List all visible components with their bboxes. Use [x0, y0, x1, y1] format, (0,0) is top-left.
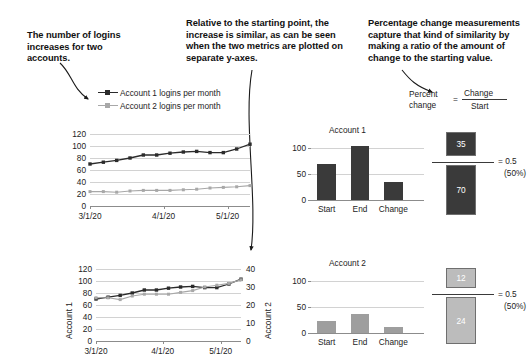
- data-point: [142, 153, 145, 156]
- y-axis-tick-label-right: 30: [246, 282, 270, 292]
- data-point: [248, 143, 251, 146]
- x-axis-tick-label: 3/1/20: [68, 211, 112, 221]
- x-axis-tick-mark: [90, 206, 91, 209]
- data-point: [88, 162, 91, 165]
- y-axis-tick-label-right: 40: [246, 264, 270, 274]
- x-axis-tick-label: Change: [369, 204, 418, 214]
- data-point: [249, 184, 252, 187]
- ratio-account-2-fraction-bar: [432, 294, 494, 295]
- bar-start: [317, 321, 336, 333]
- y-axis-tick-label: 100: [284, 143, 306, 153]
- gridline: [310, 281, 424, 282]
- x-axis-tick-mark: [163, 341, 164, 344]
- data-point: [215, 284, 218, 287]
- data-point: [167, 287, 170, 290]
- bar-chart-account-2[interactable]: Account 2 050100StartEndChange: [285, 258, 410, 358]
- y-axis-tick-mark: [308, 307, 311, 308]
- ratio-account-2-denominator: 24: [446, 297, 476, 344]
- y-axis-tick-label-left: 100: [58, 141, 86, 151]
- y-axis-tick-label: 100: [284, 276, 306, 286]
- annotation-middle: Relative to the starting point, the incr…: [186, 18, 358, 64]
- x-axis-tick-label: 4/1/20: [141, 346, 185, 356]
- data-point: [115, 159, 118, 162]
- y-axis-tick-label-left: 80: [58, 153, 86, 163]
- y-axis-tick-label-left: 120: [58, 129, 86, 139]
- x-axis-tick-label: 5/1/20: [206, 211, 250, 221]
- data-point: [102, 190, 105, 193]
- data-point: [182, 150, 185, 153]
- data-point: [155, 293, 158, 296]
- data-point: [155, 189, 158, 192]
- data-point: [89, 190, 92, 193]
- y-axis-title-right: Account 2: [263, 302, 273, 339]
- y-axis-tick-label-left: 80: [64, 288, 92, 298]
- data-point: [169, 189, 172, 192]
- bar-chart-account-1-title: Account 1: [285, 125, 410, 135]
- y-axis-tick-label: 50: [284, 169, 306, 179]
- data-point: [179, 285, 182, 288]
- data-point: [222, 151, 225, 154]
- formula-fraction-bar: [462, 99, 507, 100]
- annotation-left: The number of logins increases for two a…: [27, 30, 147, 65]
- legend-label-account-2: Account 2 logins per month: [120, 101, 221, 111]
- data-point: [182, 188, 185, 191]
- data-point: [195, 188, 198, 191]
- data-point: [191, 285, 194, 288]
- legend-item-account-2[interactable]: Account 2 logins per month: [98, 99, 221, 112]
- x-axis-tick-label: 5/1/20: [199, 346, 243, 356]
- data-point: [107, 296, 110, 299]
- data-point: [191, 289, 194, 292]
- data-point: [227, 282, 230, 285]
- formula-numerator: Change: [464, 88, 493, 98]
- formula-label-line-1: Percent: [409, 89, 438, 99]
- y-axis-tick-label-left: 120: [64, 264, 92, 274]
- formula-denominator: Start: [471, 101, 489, 111]
- data-point: [128, 156, 131, 159]
- ratio-account-1-equals: = 0.5: [498, 156, 517, 166]
- data-point: [240, 278, 243, 281]
- ratio-account-1-fraction-bar: [432, 162, 494, 163]
- data-point: [155, 153, 158, 156]
- x-axis-tick-mark: [228, 206, 229, 209]
- data-point: [195, 150, 198, 153]
- y-axis-tick-label: 50: [284, 302, 306, 312]
- bar-change: [384, 182, 403, 200]
- gridline: [310, 307, 424, 308]
- data-point: [142, 189, 145, 192]
- data-point: [208, 151, 211, 154]
- line-chart-shared-axis[interactable]: 0204060801001203/1/204/1/205/1/20: [58, 128, 258, 223]
- data-point: [235, 147, 238, 150]
- legend-marker-account-2: [98, 101, 118, 111]
- data-point: [179, 291, 182, 294]
- y-axis-tick-label: 0: [284, 195, 306, 205]
- data-point: [129, 190, 132, 193]
- legend-item-account-1[interactable]: Account 1 logins per month: [98, 86, 221, 99]
- y-axis-tick-mark: [308, 281, 311, 282]
- arrow-left-annotation: [60, 63, 88, 99]
- data-point: [209, 187, 212, 190]
- bar-change: [384, 327, 403, 333]
- ratio-account-1: 35 70 = 0.5 (50%): [432, 132, 530, 218]
- x-axis-tick-label: 3/1/20: [74, 346, 118, 356]
- bar-end: [351, 314, 370, 333]
- y-axis-tick-label-left: 20: [58, 189, 86, 199]
- ratio-account-1-numerator: 35: [446, 132, 476, 156]
- x-axis-tick-mark: [221, 341, 222, 344]
- x-axis-tick-mark: [96, 341, 97, 344]
- y-axis-tick-label-left: 0: [58, 201, 86, 211]
- bar-chart-account-1[interactable]: Account 1 050100StartEndChange: [285, 125, 410, 225]
- chart-legend: Account 1 logins per month Account 2 log…: [98, 86, 221, 112]
- data-point: [131, 295, 134, 298]
- line-series-group: [90, 134, 250, 206]
- line-chart-dual-axis[interactable]: 0204060801001200102030403/1/204/1/205/1/…: [48, 263, 273, 358]
- x-axis-line: [310, 200, 424, 201]
- y-axis-tick-label-left: 40: [58, 177, 86, 187]
- formula-label-line-2: change: [409, 100, 436, 110]
- annotation-right: Percentage change measurements capture t…: [368, 18, 528, 64]
- data-point: [102, 161, 105, 164]
- data-point: [95, 296, 98, 299]
- x-axis-line: [90, 206, 250, 207]
- ratio-account-2-equals: = 0.5: [498, 289, 517, 299]
- ratio-account-2: 12 24 = 0.5 (50%): [432, 268, 530, 354]
- x-axis-tick-mark: [164, 206, 165, 209]
